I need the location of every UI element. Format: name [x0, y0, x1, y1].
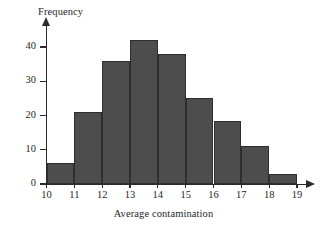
x-tick: [46, 184, 47, 188]
histogram-bar: [241, 146, 269, 184]
x-tick-label: 14: [147, 189, 169, 200]
y-axis-arrow-icon: [42, 17, 50, 26]
y-tick-label: 0: [10, 177, 36, 188]
histogram-bar: [47, 163, 75, 184]
x-tick: [74, 184, 75, 188]
y-axis-line: [46, 25, 47, 185]
histogram-bar: [102, 61, 130, 184]
y-tick: [40, 46, 47, 47]
histogram-figure: Frequency 010203040 10111213141516171819…: [0, 0, 327, 235]
histogram-bar: [269, 174, 297, 184]
x-tick: [102, 184, 103, 188]
x-tick-label: 19: [286, 189, 308, 200]
y-tick-label: 20: [10, 109, 36, 120]
y-tick: [40, 149, 47, 150]
histogram-bar: [130, 40, 158, 184]
y-tick: [40, 81, 47, 82]
y-tick-label: 10: [10, 143, 36, 154]
histogram-bar: [214, 121, 242, 184]
x-tick: [296, 184, 297, 188]
x-axis-arrow-icon: [306, 180, 315, 188]
y-tick-label: 40: [10, 40, 36, 51]
x-tick-label: 18: [258, 189, 280, 200]
x-tick-label: 12: [91, 189, 113, 200]
x-tick-label: 13: [119, 189, 141, 200]
x-tick: [129, 184, 130, 188]
x-tick: [213, 184, 214, 188]
histogram-bar: [74, 112, 102, 184]
x-tick-label: 17: [230, 189, 252, 200]
x-tick-label: 10: [36, 189, 58, 200]
x-tick-label: 16: [203, 189, 225, 200]
y-tick-label: 30: [10, 74, 36, 85]
histogram-bar: [158, 54, 186, 184]
x-tick: [241, 184, 242, 188]
x-tick: [185, 184, 186, 188]
x-tick-label: 15: [175, 189, 197, 200]
plot-area: 010203040 10111213141516171819: [0, 0, 327, 235]
x-tick-label: 11: [63, 189, 85, 200]
histogram-bar: [186, 98, 214, 184]
x-tick: [157, 184, 158, 188]
x-tick: [269, 184, 270, 188]
y-tick: [40, 115, 47, 116]
x-axis-title: Average contamination: [0, 208, 327, 219]
